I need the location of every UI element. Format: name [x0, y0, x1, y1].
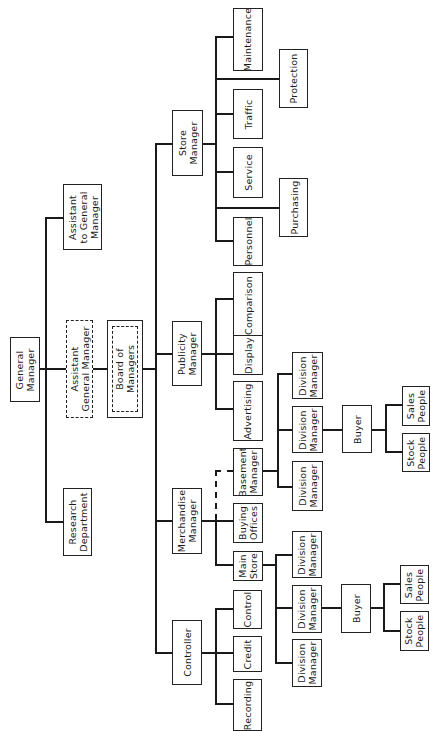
node-label: Controller [182, 628, 193, 677]
node-label: Assistant to General Manager [66, 191, 99, 243]
node-label: Traffic [243, 99, 254, 129]
node-label: Division Manager [297, 354, 319, 397]
connector [45, 217, 47, 523]
connector [383, 630, 400, 632]
node-assistant-to-general-manager: Assistant to General Manager [63, 184, 102, 250]
node-label: Maintenance [243, 8, 254, 71]
node-label: Division Manager [296, 587, 318, 630]
node-label: Display [243, 337, 254, 373]
node-store-manager: Store Manager [172, 110, 203, 176]
node-protection: Protection [279, 49, 308, 108]
node-general-manager: General Manager [10, 337, 40, 402]
node-label: Buyer [352, 415, 363, 444]
node-label: Protection [288, 53, 299, 103]
connector [277, 429, 292, 431]
node-label: Control [242, 592, 253, 628]
connector [215, 240, 233, 242]
connector [215, 408, 233, 410]
connector [45, 521, 63, 523]
node-label: Buying Offices [237, 506, 259, 540]
connector [155, 652, 172, 654]
node-label: Research Department [67, 492, 89, 552]
node-controller: Controller [172, 620, 202, 685]
connector [155, 353, 172, 355]
connector [215, 353, 233, 355]
connector [275, 554, 277, 664]
node-main-store: Main Store [233, 551, 263, 581]
node-label: Division Manager [296, 533, 318, 576]
node-main-buyer: Buyer [341, 584, 371, 633]
node-advertising: Advertising [233, 381, 263, 441]
node-label: Recording [242, 680, 253, 729]
connector [262, 470, 278, 472]
node-main-stock-people: Stock People [400, 611, 429, 651]
node-label: Sales People [405, 390, 427, 423]
connector [155, 520, 172, 522]
connector [39, 368, 66, 370]
connector [155, 143, 157, 654]
node-label: Basement Manager [237, 448, 259, 496]
node-label: Purchasing [288, 181, 299, 235]
connector [215, 652, 233, 654]
node-label: Buyer [351, 594, 362, 623]
node-buying-offices: Buying Offices [233, 503, 263, 543]
node-label: Publicity Manager [176, 332, 198, 375]
node-purchasing: Purchasing [279, 178, 308, 237]
node-main-sales-people: Sales People [400, 565, 429, 604]
node-label: Division Manager [297, 464, 319, 507]
node-label: Advertising [243, 383, 254, 439]
node-label: Main Store [237, 553, 259, 579]
connector [277, 486, 292, 488]
connector [215, 564, 233, 566]
connector [371, 429, 386, 431]
node-main-division-manager: Division Manager [292, 585, 322, 633]
node-board-of-managers: Board of Managers [107, 320, 143, 418]
connector [215, 608, 233, 610]
connector [322, 429, 342, 431]
connector [321, 607, 341, 609]
node-control: Control [233, 590, 262, 629]
connector [215, 36, 217, 242]
connector [45, 217, 63, 219]
node-label: Division Manager [296, 641, 318, 684]
node-basement-sales-people: Sales People [402, 386, 430, 426]
node-main-division-manager: Division Manager [292, 639, 322, 687]
node-label: Comparison [243, 276, 254, 335]
node-traffic: Traffic [233, 89, 263, 139]
connector [275, 607, 292, 609]
node-merchandise-manager: Merchandise Manager [172, 488, 202, 554]
connector [155, 143, 172, 145]
node-label: Service [243, 154, 254, 191]
node-label: Stock People [405, 436, 427, 469]
connector [215, 298, 233, 300]
node-label: Credit [242, 639, 253, 669]
connector [215, 703, 233, 705]
connector [275, 662, 292, 664]
connector [215, 113, 233, 115]
node-publicity-manager: Publicity Manager [172, 321, 202, 386]
connector [385, 404, 402, 406]
connector [383, 583, 400, 585]
node-label: Assistant General Manager [69, 326, 91, 411]
node-basement-buyer: Buyer [342, 405, 372, 453]
node-comparison: Comparison [233, 272, 263, 338]
connector [215, 207, 279, 209]
connector [385, 404, 387, 453]
node-service: Service [233, 147, 263, 198]
node-maintenance: Maintenance [233, 8, 263, 71]
connector [383, 583, 385, 632]
node-assistant-general-manager: Assistant General Manager [66, 320, 93, 418]
node-label: Sales People [404, 568, 426, 601]
node-research-department: Research Department [63, 488, 92, 556]
connector [92, 368, 107, 370]
node-label: Store Manager [177, 121, 199, 164]
node-basement-division-manager: Division Manager [292, 461, 323, 511]
node-label: Division Manager [297, 408, 319, 451]
connector [277, 373, 292, 375]
node-label: Board of Managers [114, 345, 136, 393]
connector [385, 451, 402, 453]
node-basement-stock-people: Stock People [402, 433, 430, 472]
connector [215, 608, 217, 705]
connector [215, 78, 279, 80]
